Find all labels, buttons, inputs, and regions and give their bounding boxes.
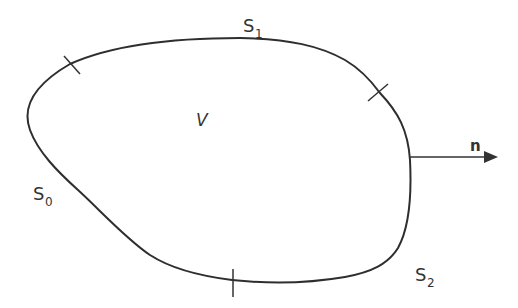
normal-vector-label: n <box>470 137 481 155</box>
volume-boundary-diagram: n V S 1 S 0 S 2 <box>0 0 518 308</box>
surface-label-s1-subscript: 1 <box>255 27 263 41</box>
normal-vector-arrowhead <box>484 151 498 163</box>
surface-label-s2: S <box>415 264 426 285</box>
region-label-v: V <box>196 110 209 130</box>
surface-label-s0-subscript: 0 <box>45 195 53 209</box>
surface-label-s2-subscript: 2 <box>427 276 435 290</box>
surface-label-s1: S <box>243 15 254 36</box>
region-boundary-outline <box>27 38 410 282</box>
surface-label-s0: S <box>33 183 44 204</box>
